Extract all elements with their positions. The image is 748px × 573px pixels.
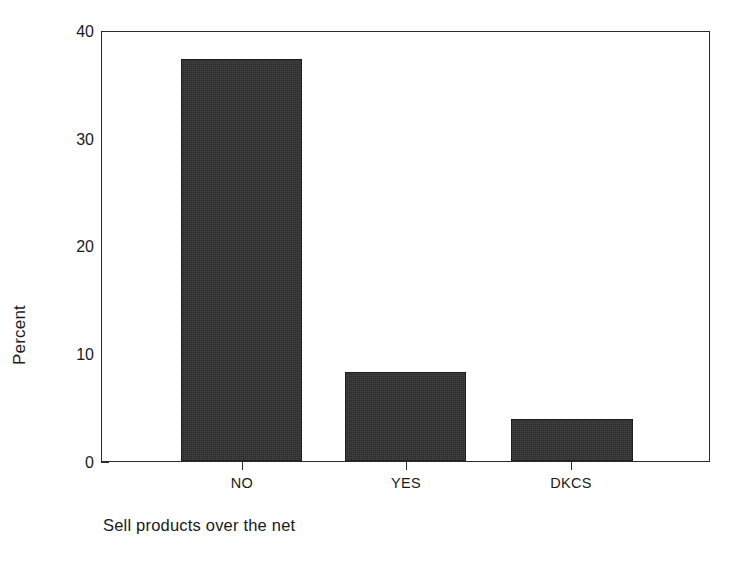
y-axis-tick-label: 10: [54, 347, 94, 363]
y-axis-tick-label: 30: [54, 132, 94, 148]
x-axis-tick-mark: [571, 462, 572, 470]
x-axis-tick-mark: [242, 462, 243, 470]
plot-area: [101, 31, 710, 462]
x-axis-tick-label-no: NO: [182, 476, 302, 492]
y-axis-tick-label-group: 40 30 20 10 0: [46, 0, 94, 573]
plot-inner: [102, 32, 709, 461]
x-axis-title: Sell products over the net: [103, 516, 295, 535]
y-axis-tick-label: 0: [54, 455, 94, 471]
bar-chart: Percent 40 30 20 10 0 NO YES DKCS Sell p…: [0, 0, 748, 573]
bar-dkcs: [511, 419, 633, 461]
bar-no: [181, 59, 302, 461]
y-axis-tick-label: 20: [54, 239, 94, 255]
y-axis-tick-label: 40: [54, 24, 94, 40]
y-axis-title: Percent: [0, 205, 40, 365]
x-axis-tick-label-yes: YES: [346, 476, 466, 492]
x-axis-tick-mark: [406, 462, 407, 470]
x-axis-tick-label-dkcs: DKCS: [511, 476, 631, 492]
y-axis-tick-mark: [101, 462, 109, 463]
bar-yes: [345, 372, 466, 461]
